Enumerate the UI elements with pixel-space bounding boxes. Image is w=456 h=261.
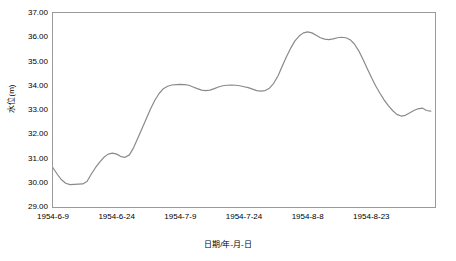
x-tick-label: 1954-8-8 — [278, 212, 338, 221]
y-tick-label: 36.00 — [16, 33, 48, 41]
y-tick-label: 35.00 — [16, 58, 48, 66]
x-tick-label: 1954-8-23 — [341, 212, 401, 221]
y-axis-title-wrapper: 水位(m) — [2, 0, 18, 196]
y-tick-label: 33.00 — [16, 106, 48, 114]
plot-area — [52, 12, 436, 208]
y-tick-label: 37.00 — [16, 9, 48, 17]
x-axis-title: 日期/年-月-日 — [0, 238, 456, 249]
y-tick-label: 30.00 — [16, 179, 48, 187]
y-tick-label: 31.00 — [16, 155, 48, 163]
water-level-line — [53, 32, 431, 185]
x-tick-label: 1954-6-9 — [23, 212, 83, 221]
x-tick-label: 1954-6-24 — [87, 212, 147, 221]
y-tick-label: 34.00 — [16, 82, 48, 90]
y-tick-label: 29.00 — [16, 203, 48, 211]
line-series-svg — [53, 13, 435, 207]
x-tick-label: 1954-7-24 — [214, 212, 274, 221]
y-tick-label: 32.00 — [16, 130, 48, 138]
chart-container: 水位(m) 37.0036.0035.0034.0033.0032.0031.0… — [0, 0, 456, 261]
x-tick-label: 1954-7-9 — [150, 212, 210, 221]
y-axis-title: 水位(m) — [5, 84, 16, 112]
